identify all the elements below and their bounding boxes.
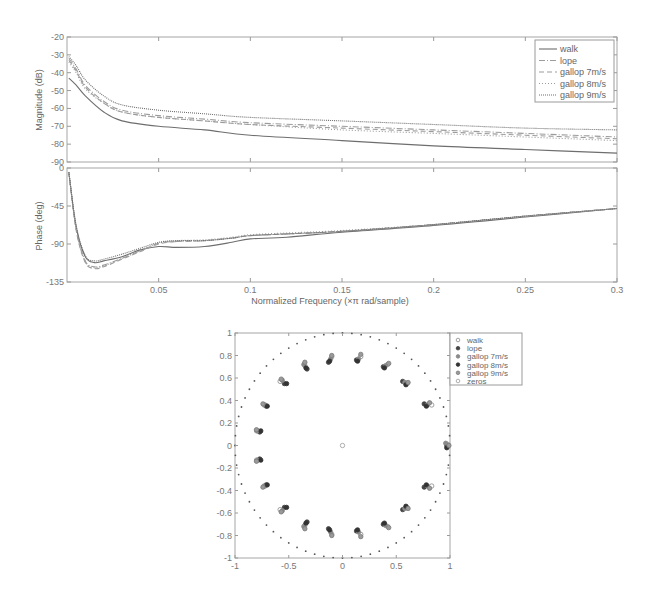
- marker-gallop-8m-s: [284, 381, 288, 385]
- marker-gallop-9m-s: [303, 360, 307, 364]
- legend-entry: gallop 8m/s: [560, 79, 607, 89]
- marker-gallop-8m-s: [327, 528, 331, 532]
- pole-zero-plot-frame: [235, 333, 450, 558]
- svg-text:0.15: 0.15: [333, 285, 351, 295]
- marker-gallop-9m-s: [330, 353, 334, 357]
- svg-text:-0.2: -0.2: [216, 463, 232, 473]
- svg-text:-0.8: -0.8: [216, 531, 232, 541]
- marker-gallop-8m-s: [284, 505, 288, 509]
- pole-zero-markers: [254, 352, 451, 539]
- marker-gallop-8m-s: [327, 359, 331, 363]
- svg-text:-60: -60: [51, 103, 64, 113]
- svg-text:-90: -90: [51, 239, 64, 249]
- phase-axes: 0-45-90-135 0.050.10.150.20.250.3 Phase …: [34, 163, 623, 306]
- svg-text:0.1: 0.1: [244, 285, 257, 295]
- svg-text:1: 1: [447, 561, 452, 571]
- marker-gallop-9m-s: [427, 486, 431, 490]
- marker-gallop-9m-s: [254, 459, 258, 463]
- magnitude-axes: -20-30-40-50-60-70-80-90 Magnitude (dB) …: [34, 32, 617, 167]
- marker-gallop-8m-s: [259, 458, 263, 462]
- marker-gallop-8m-s: [304, 366, 308, 370]
- marker-gallop-9m-s: [261, 402, 265, 406]
- marker-gallop-8m-s: [304, 521, 308, 525]
- marker-gallop-9m-s: [406, 380, 410, 384]
- svg-text:-1: -1: [231, 561, 239, 571]
- svg-text:-80: -80: [51, 139, 64, 149]
- phase-series: [69, 172, 617, 269]
- svg-text:-30: -30: [51, 50, 64, 60]
- svg-text:0.6: 0.6: [219, 373, 232, 383]
- legend-entry: gallop 9m/s: [560, 90, 607, 100]
- marker-gallop-9m-s: [427, 401, 431, 405]
- svg-text:0: 0: [340, 561, 345, 571]
- frequency-x-label: Normalized Frequency (×π rad/sample): [251, 296, 409, 306]
- svg-text:-0.4: -0.4: [216, 486, 232, 496]
- svg-text:-45: -45: [51, 201, 64, 211]
- marker-gallop-8m-s: [355, 528, 359, 532]
- series-line-lope: [69, 172, 617, 267]
- marker-gallop-9m-s: [387, 525, 391, 529]
- phase-y-label: Phase (deg): [34, 201, 44, 250]
- marker-gallop-8m-s: [265, 483, 269, 487]
- svg-text:0: 0: [59, 163, 64, 173]
- pole-zero-legend: walklopegallop 7m/sgallop 8m/sgallop 9m/…: [450, 333, 522, 386]
- marker-gallop-8m-s: [355, 359, 359, 363]
- legend-entry: gallop 7m/s: [560, 67, 607, 77]
- marker-gallop-9m-s: [303, 527, 307, 531]
- series-line-gallop-7m-s: [69, 172, 617, 269]
- marker-gallop-8m-s: [265, 404, 269, 408]
- svg-text:1: 1: [227, 328, 232, 338]
- svg-text:-0.6: -0.6: [216, 508, 232, 518]
- svg-text:0.25: 0.25: [517, 285, 535, 295]
- marker-gallop-8m-s: [259, 429, 263, 433]
- marker-gallop-9m-s: [387, 361, 391, 365]
- svg-text:-0.5: -0.5: [281, 561, 297, 571]
- marker-gallop-9m-s: [447, 443, 451, 447]
- magnitude-legend: walklopegallop 7m/sgallop 8m/sgallop 9m/…: [535, 40, 614, 102]
- marker-gallop-9m-s: [359, 352, 363, 356]
- marker-gallop-8m-s: [382, 366, 386, 370]
- phase-x-ticks: 0.050.10.150.20.250.3: [150, 168, 623, 295]
- svg-text:0.8: 0.8: [219, 351, 232, 361]
- svg-text:-50: -50: [51, 86, 64, 96]
- svg-text:0: 0: [227, 441, 232, 451]
- figure: -20-30-40-50-60-70-80-90 Magnitude (dB) …: [0, 0, 654, 603]
- svg-text:-70: -70: [51, 121, 64, 131]
- marker-zeros: [340, 443, 344, 447]
- svg-text:0.5: 0.5: [390, 561, 403, 571]
- marker-gallop-9m-s: [279, 510, 283, 514]
- svg-text:0.2: 0.2: [219, 418, 232, 428]
- magnitude-y-ticks: -20-30-40-50-60-70-80-90: [51, 32, 617, 167]
- svg-text:0.3: 0.3: [611, 285, 624, 295]
- marker-gallop-9m-s: [279, 377, 283, 381]
- legend-entry: lope: [560, 56, 577, 66]
- unit-circle: [234, 332, 451, 559]
- phase-y-ticks: 0-45-90-135: [46, 163, 617, 287]
- pole-zero-ticks: 10.80.60.40.20-0.2-0.4-0.6-0.8-1-1-0.500…: [216, 328, 452, 571]
- legend-entry: zeros: [467, 377, 487, 386]
- svg-text:0.2: 0.2: [427, 285, 440, 295]
- marker-gallop-8m-s: [382, 521, 386, 525]
- magnitude-y-label: Magnitude (dB): [34, 69, 44, 131]
- svg-text:0.4: 0.4: [219, 396, 232, 406]
- series-line-walk: [69, 172, 617, 263]
- marker-gallop-9m-s: [254, 428, 258, 432]
- pole-zero-axes: 10.80.60.40.20-0.2-0.4-0.6-0.8-1-1-0.500…: [216, 328, 522, 571]
- svg-text:-135: -135: [46, 277, 64, 287]
- legend-entry: walk: [559, 44, 579, 54]
- series-line-gallop-8m-s: [69, 172, 617, 268]
- marker-gallop-9m-s: [406, 506, 410, 510]
- phase-plot-frame: [67, 168, 617, 282]
- marker-gallop-9m-s: [330, 533, 334, 537]
- marker-gallop-9m-s: [261, 485, 265, 489]
- marker-gallop-9m-s: [359, 534, 363, 538]
- svg-text:0.05: 0.05: [150, 285, 168, 295]
- svg-text:-20: -20: [51, 32, 64, 42]
- svg-text:-40: -40: [51, 68, 64, 78]
